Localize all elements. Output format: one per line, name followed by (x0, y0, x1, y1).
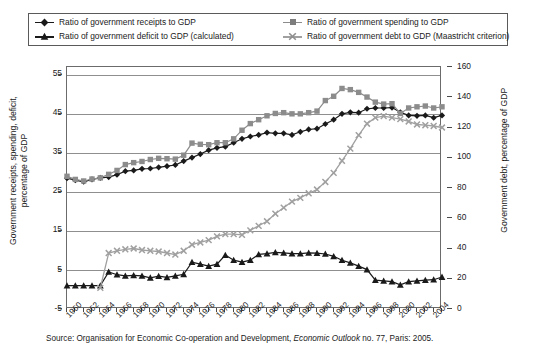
x-axis-tick-label: 2002 (415, 301, 434, 320)
y-axis-left-title: Government receipts, spending, deficit, … (8, 67, 29, 275)
x-axis-tick-label: 1966 (115, 301, 134, 320)
x-axis-tick-label: 1980 (232, 301, 251, 320)
source-prefix: Source: Organisation for Economic Co-ope… (46, 334, 294, 343)
x-axis-tick-label: 1990 (315, 301, 334, 320)
x-axis-ticks: 1960196219641966196819701972197419761978… (0, 0, 534, 353)
x-axis-tick-label: 1962 (82, 301, 101, 320)
source-italic: Economic Outlook (294, 334, 360, 343)
source-suffix: no. 77, Paris: 2005. (360, 334, 433, 343)
x-axis-tick-label: 1964 (98, 301, 117, 320)
x-axis-tick-label: 1968 (132, 301, 151, 320)
x-axis-tick-label: 1970 (148, 301, 167, 320)
x-axis-tick-label: 1982 (248, 301, 267, 320)
x-axis-tick-label: 1996 (365, 301, 384, 320)
y-axis-right-title: Government debt, percentage of GDP (499, 60, 510, 260)
x-axis-tick-label: 1992 (332, 301, 351, 320)
x-axis-tick-label: 2004 (432, 301, 451, 320)
x-axis-tick-label: 1978 (215, 301, 234, 320)
x-axis-tick-label: 1976 (198, 301, 217, 320)
x-axis-tick-label: 1974 (182, 301, 201, 320)
source-note: Source: Organisation for Economic Co-ope… (46, 334, 433, 343)
x-axis-tick-label: 1998 (382, 301, 401, 320)
x-axis-tick-label: 1986 (282, 301, 301, 320)
x-axis-tick-label: 1972 (165, 301, 184, 320)
x-axis-tick-label: 1994 (348, 301, 367, 320)
x-axis-tick-label: 1984 (265, 301, 284, 320)
x-axis-tick-label: 2000 (398, 301, 417, 320)
x-axis-tick-label: 1960 (65, 301, 84, 320)
x-axis-tick-label: 1988 (298, 301, 317, 320)
chart-figure: Ratio of government receipts to GDP Rati… (0, 0, 534, 353)
